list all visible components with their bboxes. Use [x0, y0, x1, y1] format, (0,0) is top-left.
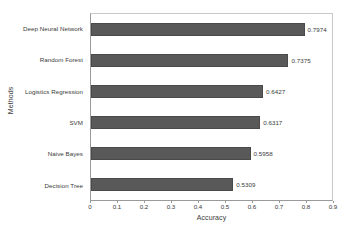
bar-value-label: 0.6317 — [260, 119, 282, 126]
bar-row: 0.5309 — [91, 169, 332, 200]
x-axis-tick-label: 0.9 — [329, 203, 338, 210]
x-axis-tick-label: 0.1 — [113, 203, 122, 210]
bar — [91, 147, 251, 160]
y-axis-tick-labels: Deep Neural NetworkRandom ForestLogistic… — [14, 13, 87, 201]
x-axis-title: Accuracy — [90, 214, 333, 221]
x-axis-tick-label: 0 — [88, 203, 91, 210]
x-axis-tick-labels: 00.10.20.30.40.50.60.70.80.9 — [90, 201, 333, 213]
plot-area: 0.79740.73750.64270.63170.59580.5309 — [90, 13, 333, 201]
bar-row: 0.7375 — [91, 45, 332, 76]
bar-row: 0.6317 — [91, 107, 332, 138]
bar-row: 0.7974 — [91, 14, 332, 45]
bar — [91, 54, 288, 67]
x-axis-tick-label: 0.6 — [248, 203, 257, 210]
x-axis-tick-label: 0.7 — [275, 203, 284, 210]
bar-value-label: 0.7974 — [305, 26, 327, 33]
bar-series: 0.79740.73750.64270.63170.59580.5309 — [91, 14, 332, 200]
y-axis-tick-label: Decision Tree — [14, 170, 87, 201]
x-axis-tick-label: 0.4 — [194, 203, 203, 210]
y-axis-tick-label: Deep Neural Network — [14, 13, 87, 44]
bar-value-label: 0.5958 — [251, 150, 273, 157]
y-axis-tick-label: SVM — [14, 107, 87, 138]
bar-row: 0.6427 — [91, 76, 332, 107]
bar-value-label: 0.5309 — [233, 181, 255, 188]
bar — [91, 116, 260, 129]
y-axis-tick-label: Logistics Regression — [14, 76, 87, 107]
bar-chart: Methods Deep Neural NetworkRandom Forest… — [0, 0, 359, 239]
bar — [91, 23, 305, 36]
bar — [91, 178, 233, 191]
x-axis-tick-label: 0.5 — [221, 203, 230, 210]
x-axis-tick-label: 0.3 — [167, 203, 176, 210]
y-axis-tick-label: Naive Bayes — [14, 138, 87, 169]
x-axis-tick-label: 0.2 — [140, 203, 149, 210]
bar-value-label: 0.7375 — [288, 57, 310, 64]
x-axis-tick-label: 0.8 — [302, 203, 311, 210]
bar — [91, 85, 263, 98]
bar-row: 0.5958 — [91, 138, 332, 169]
bar-value-label: 0.6427 — [263, 88, 285, 95]
y-axis-tick-label: Random Forest — [14, 44, 87, 75]
